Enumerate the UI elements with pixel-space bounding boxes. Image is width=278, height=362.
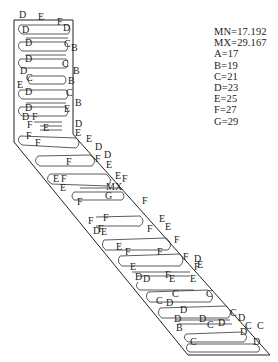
legend-level-a: A=17 — [214, 48, 267, 59]
contour-label: F — [32, 111, 38, 122]
contour-label: E — [53, 173, 59, 184]
legend-level-e: E=25 — [214, 93, 267, 104]
contour-label: D — [218, 317, 225, 328]
contour-label: D — [240, 326, 247, 337]
contour-label: C — [156, 295, 163, 306]
contour-label: E — [17, 79, 23, 90]
contour-label: F — [35, 137, 41, 148]
contour-label: F — [95, 153, 101, 164]
contour-label: D — [143, 273, 150, 284]
contour-label: C — [64, 38, 71, 49]
contour-label: E — [43, 122, 49, 133]
contour-label: F — [103, 212, 109, 223]
contour-label: C — [230, 307, 237, 318]
contour-label: C — [66, 87, 73, 98]
contour-label: B — [71, 42, 78, 53]
contour-label: F — [26, 130, 32, 141]
contour-label: D — [95, 141, 102, 152]
contour-label: F — [122, 173, 128, 184]
legend-level-f: F=27 — [214, 104, 267, 115]
contour-label: G — [105, 190, 112, 201]
contour-label: F — [183, 251, 189, 262]
contour-label: F — [66, 156, 72, 167]
legend-level-d: D=23 — [214, 82, 267, 93]
contour-label: C — [257, 320, 264, 331]
contour-label: B — [176, 322, 183, 333]
legend-max: MX=29.167 — [214, 37, 267, 48]
contour-label: C — [207, 319, 214, 330]
contour-label: D — [22, 24, 29, 35]
contour-label: E — [60, 182, 66, 193]
contour-label: C — [26, 72, 33, 83]
contour-label: D — [19, 9, 26, 20]
contour-label: D — [135, 271, 142, 282]
contour-label: F — [157, 246, 163, 257]
contour-label: F — [27, 119, 33, 130]
contour-label: E — [169, 273, 175, 284]
legend-level-c: C=21 — [214, 71, 267, 82]
contour-label: B — [75, 97, 82, 108]
contour-label: E — [38, 11, 44, 22]
contour-label: E — [86, 133, 92, 144]
contour-label: F — [125, 246, 131, 257]
legend-level-b: B=19 — [214, 60, 267, 71]
contour-label: E — [116, 241, 122, 252]
contour-label: F — [147, 223, 153, 234]
contour-label: D — [25, 37, 32, 48]
contour-label: F — [142, 195, 148, 206]
contour-label: D — [25, 86, 32, 97]
contour-label: D — [63, 22, 70, 33]
contour-label: C — [190, 336, 197, 347]
contour-label: C — [62, 58, 69, 69]
contour-label: E — [165, 221, 171, 232]
contour-label: E — [101, 226, 107, 237]
contour-label: F — [174, 234, 180, 245]
legend-min: MN=17.192 — [214, 26, 267, 37]
contour-label: F — [77, 196, 83, 207]
contour-label: E — [106, 159, 112, 170]
contour-label: E — [190, 273, 196, 284]
contour-label: E — [64, 103, 70, 114]
contour-label: D — [93, 225, 100, 236]
contour-label: E — [197, 259, 203, 270]
contour-label: C — [206, 288, 213, 299]
contour-label: E — [75, 127, 81, 138]
contour-label: B — [68, 75, 75, 86]
contour-legend: MN=17.192 MX=29.167 A=17 B=19 C=21 D=23 … — [214, 26, 267, 127]
contour-label: D — [166, 297, 173, 308]
contour-label: E — [115, 170, 121, 181]
contour-label: D — [253, 336, 260, 347]
contour-label: D — [199, 313, 206, 324]
legend-level-g: G=29 — [214, 116, 267, 127]
contour-label: D — [25, 53, 32, 64]
